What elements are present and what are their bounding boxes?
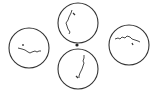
mark-icon xyxy=(76,76,78,78)
mark-icon xyxy=(73,13,75,15)
circle-outline xyxy=(58,49,98,89)
circle-outline xyxy=(109,25,149,65)
circle-group xyxy=(9,3,149,89)
circle-left xyxy=(9,28,49,68)
circle-outline xyxy=(9,28,49,68)
wavy-line xyxy=(79,55,84,78)
circle-right xyxy=(109,25,149,65)
center-dot xyxy=(75,43,78,46)
wavy-line xyxy=(18,48,41,53)
wavy-line xyxy=(66,10,72,34)
diagram-canvas xyxy=(0,0,158,98)
circle-outline xyxy=(58,3,98,43)
mark-icon xyxy=(132,43,133,45)
wavy-line xyxy=(115,36,140,42)
circle-bottom xyxy=(58,49,98,89)
circle-top xyxy=(58,3,98,43)
